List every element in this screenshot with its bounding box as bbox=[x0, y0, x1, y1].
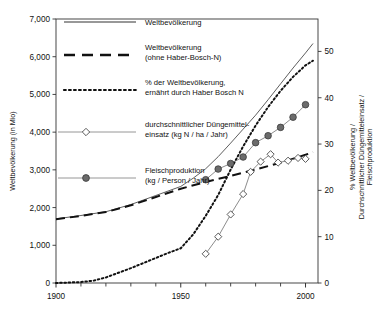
y-tick-label-left: 4,000 bbox=[30, 128, 51, 137]
x-axis: 190019502000 bbox=[47, 283, 315, 301]
data-point-circle bbox=[215, 166, 222, 173]
y-tick-label-right: 40 bbox=[325, 94, 335, 103]
data-point-circle bbox=[240, 154, 247, 161]
legend-label: Fleischproduktion bbox=[145, 166, 205, 175]
y-tick-label-left: 6,000 bbox=[30, 53, 51, 62]
x-tick-label: 2000 bbox=[296, 292, 315, 301]
y-tick-label-left: 3,000 bbox=[30, 166, 51, 175]
y-tick-label-left: 5,000 bbox=[30, 90, 51, 99]
data-point-circle bbox=[302, 101, 309, 108]
data-point-circle bbox=[227, 160, 234, 167]
legend-item-3[interactable]: % der Weltbevölkerung,ernährt durch Habe… bbox=[64, 78, 244, 97]
series-5 bbox=[202, 101, 308, 183]
y-tick-label-left: 7,000 bbox=[30, 15, 51, 24]
legend-label-2: einsatz (kg N / ha / Jahr) bbox=[145, 130, 228, 139]
y-tick-label-right: 30 bbox=[325, 140, 335, 149]
axis-titles: Weltbevölkerung (in Mio)% Weltbevölkerun… bbox=[8, 95, 374, 219]
data-point-circle bbox=[277, 124, 284, 131]
y-tick-label-left: 2,000 bbox=[30, 204, 51, 213]
data-point-diamond bbox=[240, 190, 247, 197]
x-tick-label: 1950 bbox=[172, 292, 191, 301]
data-point-diamond bbox=[202, 250, 209, 257]
legend-label: % der Weltbevölkerung, bbox=[145, 78, 225, 87]
legend-label-2: (kg / Person / Jahr) bbox=[145, 176, 210, 185]
legend-item-4[interactable]: durchschnittlicher Düngemittel-einsatz (… bbox=[58, 120, 250, 139]
legend-item-2[interactable]: Weltbevölkerung(ohne Haber-Bosch-N) bbox=[64, 43, 222, 62]
legend-item-5[interactable]: Fleischproduktion(kg / Person / Jahr) bbox=[58, 166, 210, 185]
data-point-circle bbox=[265, 132, 272, 139]
y-tick-label-right: 0 bbox=[325, 279, 330, 288]
y-tick-label-right: 50 bbox=[325, 47, 335, 56]
legend-marker-diamond bbox=[82, 128, 89, 135]
legend-marker-circle bbox=[83, 175, 90, 182]
data-point-diamond bbox=[227, 211, 234, 218]
data-point-diamond bbox=[215, 233, 222, 240]
data-point-diamond bbox=[284, 157, 291, 164]
legend-label: Weltbevölkerung bbox=[145, 18, 201, 27]
y-tick-label-right: 10 bbox=[325, 233, 335, 242]
legend-label-2: ernährt durch Haber Bosch N bbox=[145, 88, 244, 97]
y-tick-label-right: 20 bbox=[325, 186, 335, 195]
y-axis-title-right-line: Fleischproduktion bbox=[365, 129, 374, 185]
legend-label: durchschnittlicher Düngemittel- bbox=[145, 120, 250, 129]
chart-container: 01,0002,0003,0004,0005,0006,0007,0000102… bbox=[0, 0, 384, 319]
y-axis-right: 01020304050 bbox=[318, 47, 334, 288]
x-tick-label: 1900 bbox=[47, 292, 66, 301]
population-nitrogen-chart: 01,0002,0003,0004,0005,0006,0007,0000102… bbox=[0, 0, 384, 319]
legend-label: Weltbevölkerung bbox=[145, 43, 201, 52]
y-tick-label-left: 1,000 bbox=[30, 241, 51, 250]
y-tick-label-left: 0 bbox=[45, 279, 50, 288]
legend-label-2: (ohne Haber-Bosch-N) bbox=[145, 53, 222, 62]
y-axis-title-left: Weltbevölkerung (in Mio) bbox=[8, 111, 17, 190]
data-point-circle bbox=[290, 114, 297, 121]
y-axis-left: 01,0002,0003,0004,0005,0006,0007,000 bbox=[30, 15, 57, 288]
data-point-circle bbox=[252, 139, 259, 146]
legend: WeltbevölkerungWeltbevölkerung(ohne Habe… bbox=[58, 18, 250, 185]
